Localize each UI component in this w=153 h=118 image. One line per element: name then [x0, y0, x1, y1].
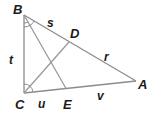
segment-ca [24, 81, 136, 93]
angle-arc-b-2 [30, 21, 34, 25]
vertex-label-d: D [70, 26, 80, 41]
angle-arc-c-2 [30, 86, 33, 92]
segment-label-u: u [38, 97, 46, 111]
vertex-label-b: B [13, 2, 22, 17]
segment-label-t: t [9, 53, 14, 67]
angle-arc-c-1 [24, 84, 30, 86]
triangle-diagram: B C A D E s r t u v [0, 0, 153, 118]
bisector-cd [24, 42, 69, 93]
angle-arc-b-1 [24, 25, 30, 27]
segment-label-s: s [47, 16, 54, 30]
segment-label-v: v [97, 89, 105, 103]
segment-ba [24, 15, 136, 81]
vertex-label-a: A [137, 77, 147, 92]
vertex-label-c: C [15, 97, 25, 112]
vertex-label-e: E [63, 97, 72, 112]
segment-label-r: r [104, 50, 110, 64]
